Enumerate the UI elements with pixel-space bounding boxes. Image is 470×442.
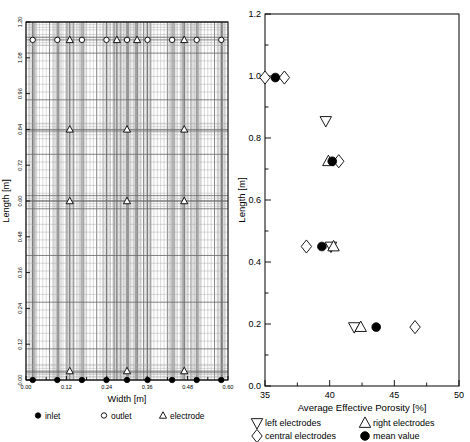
marker-filled-circle [169, 377, 174, 382]
marker-filled-circle [104, 377, 109, 382]
x-axis-title: Width [m] [108, 394, 147, 404]
y-tick-label: 0.24 [17, 303, 23, 314]
legend-item-inlet: inlet [35, 411, 61, 421]
data-markers [260, 71, 420, 334]
x-tick-label: 35 [260, 390, 270, 400]
x-tick-label: 40 [325, 390, 335, 400]
y-axis: 0.000.120.240.360.480.600.720.840.961.08… [17, 17, 30, 386]
figure-container: 0.000.120.240.360.480.600.720.840.961.08… [0, 0, 470, 442]
porosity-profile-svg: 0.00.20.40.60.81.01.2Length [m]35404550A… [235, 0, 470, 442]
y-tick-label: 0.60 [17, 196, 23, 207]
y-tick-label: 0.36 [17, 267, 23, 278]
marker-filled-circle [194, 377, 199, 382]
reactor-layout-svg: 0.000.120.240.360.480.600.720.840.961.08… [0, 0, 235, 442]
y-tick-label: 0.72 [17, 160, 23, 171]
y-tick-label: 1.0 [248, 71, 261, 81]
series-central-electrodes [260, 71, 420, 334]
legend-marker-open-triangle-up [159, 412, 166, 418]
legend-item-mean-value: mean value [361, 431, 420, 441]
legend-label: outlet [111, 411, 132, 421]
marker-open-diamond [260, 71, 270, 84]
chart-panel-porosity-profile: 0.00.20.40.60.81.01.2Length [m]35404550A… [235, 0, 470, 442]
marker-filled-circle [328, 157, 337, 166]
marker-open-circle [219, 37, 224, 42]
y-tick-label: 0.48 [17, 231, 23, 242]
x-tick-label: 45 [389, 390, 399, 400]
series-outlet [30, 37, 224, 42]
marker-open-circle [104, 37, 109, 42]
marker-filled-circle [271, 73, 280, 82]
legend-marker-filled-circle [35, 413, 40, 418]
chart-panel-reactor-layout: 0.000.120.240.360.480.600.720.840.961.08… [0, 0, 235, 442]
x-tick-label: 50 [454, 390, 464, 400]
legend: left electrodesright electrodescentral e… [251, 417, 435, 442]
x-tick-label: 0.48 [182, 384, 193, 390]
marker-open-diamond [410, 321, 420, 334]
marker-filled-circle [79, 377, 84, 382]
marker-filled-circle [145, 377, 150, 382]
legend: inletoutletelectrode [35, 411, 204, 421]
legend-marker-open-triangle-up [359, 417, 370, 427]
legend-label: inlet [45, 411, 61, 421]
marker-open-circle [30, 37, 35, 42]
y-axis-title: Length [m] [1, 179, 11, 222]
legend-marker-open-circle [101, 413, 106, 418]
legend-marker-open-diamond [252, 429, 262, 442]
y-tick-label: 0.84 [17, 124, 23, 135]
legend-label: mean value [373, 431, 420, 441]
x-axis: 35404550 [260, 380, 464, 400]
marker-open-diamond [301, 240, 311, 253]
legend-marker-open-triangle-down [251, 419, 262, 429]
marker-filled-circle [318, 242, 327, 251]
x-tick-label: 0.12 [61, 384, 72, 390]
y-axis: 0.00.20.40.60.81.01.2 [248, 9, 271, 391]
marker-filled-circle [30, 377, 35, 382]
marker-filled-circle [219, 377, 224, 382]
y-tick-label: 0.2 [248, 319, 261, 329]
marker-open-circle [145, 37, 150, 42]
marker-open-triangle-down [320, 117, 331, 127]
x-tick-label: 0.60 [223, 384, 234, 390]
marker-open-circle [124, 37, 129, 42]
marker-filled-circle [124, 377, 129, 382]
legend-label: central electrodes [265, 431, 337, 441]
y-axis-title: Length [m] [236, 177, 247, 222]
x-tick-label: 0.36 [142, 384, 153, 390]
y-tick-label: 1.2 [248, 9, 261, 19]
legend-label: right electrodes [373, 418, 435, 428]
series-mean-value [271, 73, 381, 331]
series-inlet [30, 377, 224, 382]
series-left-electrodes [320, 117, 360, 334]
marker-filled-circle [55, 377, 60, 382]
marker-open-circle [55, 37, 60, 42]
marker-open-diamond [279, 71, 289, 84]
y-tick-label: 1.08 [17, 52, 23, 63]
x-tick-label: 0.24 [101, 384, 112, 390]
y-tick-label: 1.20 [17, 17, 23, 28]
marker-filled-circle [372, 323, 381, 332]
legend-label: electrode [170, 411, 205, 421]
legend-label: left electrodes [265, 418, 322, 428]
legend-item-right-electrodes: right electrodes [359, 417, 435, 428]
marker-open-circle [194, 37, 199, 42]
y-tick-label: 0.12 [17, 339, 23, 350]
marker-open-circle [169, 37, 174, 42]
legend-item-central-electrodes: central electrodes [252, 429, 337, 442]
y-tick-label: 0.6 [248, 195, 261, 205]
legend-item-electrode: electrode [159, 411, 204, 421]
y-tick-label: 0.4 [248, 257, 261, 267]
y-tick-label: 0.8 [248, 133, 261, 143]
legend-item-left-electrodes: left electrodes [251, 418, 321, 429]
y-tick-label: 0.96 [17, 88, 23, 99]
legend-marker-filled-circle [361, 432, 370, 441]
marker-open-circle [79, 37, 84, 42]
legend-item-outlet: outlet [101, 411, 132, 421]
x-axis-title: Average Effective Porosity [%] [298, 402, 427, 413]
x-tick-label: 0.00 [21, 384, 32, 390]
